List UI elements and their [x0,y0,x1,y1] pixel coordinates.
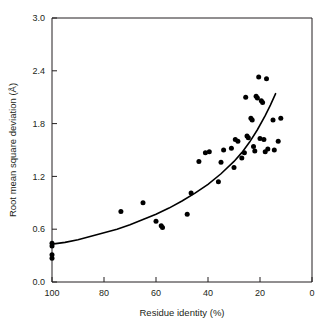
data-point [242,150,247,155]
data-point [216,179,221,184]
data-point [232,165,237,170]
data-point [256,74,261,79]
data-point [185,212,190,217]
data-point [276,139,281,144]
y-tick-labels: 0.00.61.21.82.43.0 [32,13,45,287]
data-point [251,144,256,149]
data-point [50,256,55,261]
data-point [189,191,194,196]
data-point [250,118,255,123]
x-tick-labels: 100806040200 [44,288,314,298]
x-axis-title: Residue identity (%) [139,307,224,318]
data-point [260,100,265,105]
data-point [229,146,234,151]
y-tick-label: 1.2 [32,172,45,182]
data-point [246,135,251,140]
data-point [196,159,201,164]
figure-container: 100806040200 0.00.61.21.82.43.0 Residue … [0,0,335,321]
x-tick-label: 80 [99,288,109,298]
data-point [141,200,146,205]
x-tick-label: 60 [151,288,161,298]
y-tick-label: 3.0 [32,13,45,23]
data-point [271,118,276,123]
y-tick-label: 2.4 [32,66,45,76]
fit-curve [52,94,276,244]
data-points-group [50,74,284,260]
data-point [50,243,55,248]
data-point [278,116,283,121]
scatter-plot: 100806040200 0.00.61.21.82.43.0 Residue … [0,0,335,321]
data-point [239,155,244,160]
data-point [243,95,248,100]
data-point [160,225,165,230]
data-point [154,219,159,224]
x-tick-label: 100 [44,288,59,298]
x-tick-label: 40 [203,288,213,298]
data-point [261,137,266,142]
x-tick-label: 0 [309,288,314,298]
y-tick-label: 1.8 [32,119,45,129]
data-point [221,148,226,153]
y-tick-label: 0.0 [32,277,45,287]
data-point [265,147,270,152]
data-point [235,139,240,144]
data-point [118,209,123,214]
data-point [252,148,257,153]
y-axis-title: Root mean square deviation (Å) [7,83,18,217]
y-tick-label: 0.6 [32,224,45,234]
x-tick-label: 20 [255,288,265,298]
data-point [272,148,277,153]
data-point [207,149,212,154]
data-point [264,76,269,81]
data-point [219,160,224,165]
